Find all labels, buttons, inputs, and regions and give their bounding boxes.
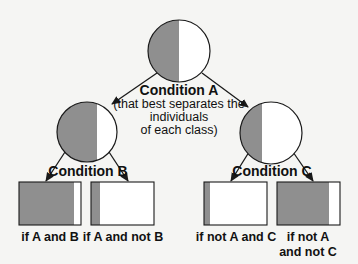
node-condition-a — [148, 20, 210, 82]
leaf-label-not-a-and-not-c-line-1: if not A — [268, 230, 348, 244]
condition-c-title: Condition C — [222, 164, 322, 179]
leaf-box-not-a-and-c — [204, 182, 267, 225]
leaf-label-a-and-not-b: if A and not B — [77, 230, 169, 244]
node-condition-c — [240, 102, 302, 164]
leaf-box-not-a-and-not-c — [277, 182, 340, 225]
leaf-box-a-and-b — [19, 182, 81, 225]
leaf-box-a-and-not-b — [91, 182, 154, 225]
node-condition-b — [57, 102, 117, 162]
condition-a-title: Condition A — [129, 83, 229, 98]
leaf-label-not-a-and-not-c-line-2: and not C — [268, 245, 348, 259]
condition-a-subtitle-line-3: of each class) — [119, 124, 239, 137]
condition-b-title: Condition B — [38, 164, 138, 179]
decision-tree-diagram: Condition A (that best separates the ind… — [0, 0, 358, 264]
